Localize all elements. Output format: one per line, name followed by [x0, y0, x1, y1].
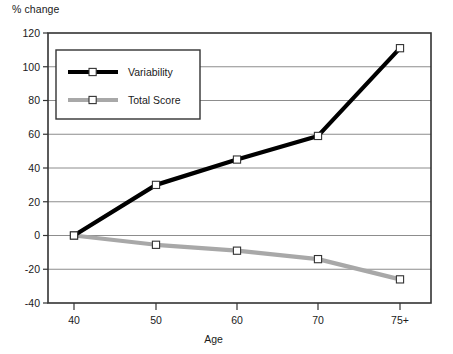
legend-swatch-marker — [89, 96, 96, 103]
y-axis-tick-label: 40 — [28, 162, 40, 174]
legend-label: Variability — [128, 66, 173, 78]
legend-box — [56, 50, 200, 119]
x-axis-ticks-group: 4050607075+ — [68, 303, 409, 326]
x-axis-title: Age — [204, 333, 223, 345]
y-axis-tick-label: -40 — [25, 297, 40, 309]
y-axis-tick-label: -20 — [25, 263, 40, 275]
x-axis-tick-label: 40 — [68, 314, 80, 326]
x-axis-tick-label: 50 — [150, 314, 162, 326]
data-point-marker — [152, 241, 159, 248]
legend-label: Total Score — [128, 94, 181, 106]
chart-legend: VariabilityTotal Score — [56, 50, 200, 119]
chart-container: % change -40-20020406080100120 405060707… — [0, 0, 453, 354]
y-axis-tick-label: 60 — [28, 128, 40, 140]
y-axis-tick-label: 80 — [28, 94, 40, 106]
y-axis-tick-label: 0 — [34, 229, 40, 241]
x-axis-tick-label: 60 — [231, 314, 243, 326]
data-point-marker — [396, 276, 403, 283]
x-axis-title-wrap: Age — [0, 333, 453, 345]
legend-swatch-marker — [89, 68, 96, 75]
data-point-marker — [396, 45, 403, 52]
data-point-marker — [314, 256, 321, 263]
data-point-marker — [233, 156, 240, 163]
chart-plot-area: -40-20020406080100120 4050607075+ Variab… — [0, 0, 453, 354]
data-point-marker — [152, 181, 159, 188]
x-axis-tick-label: 75+ — [391, 314, 409, 326]
y-axis-tick-label: 120 — [22, 27, 40, 39]
data-point-marker — [233, 247, 240, 254]
y-axis-ticks-group: -40-20020406080100120 — [22, 27, 48, 309]
data-point-marker — [70, 232, 77, 239]
series-line-total-score — [74, 236, 400, 280]
data-point-marker — [314, 132, 321, 139]
y-axis-tick-label: 20 — [28, 196, 40, 208]
y-axis-tick-label: 100 — [22, 61, 40, 73]
x-axis-tick-label: 70 — [312, 314, 324, 326]
